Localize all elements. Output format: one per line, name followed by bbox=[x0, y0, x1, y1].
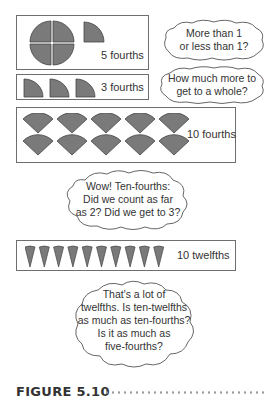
cloud-text: Wow! Ten-fourths: Did we count as far as… bbox=[63, 180, 193, 219]
quarter-circle-icon bbox=[49, 78, 70, 98]
cloud-line: as much as ten-fourths? bbox=[70, 314, 198, 327]
cloud-line: five-fourths? bbox=[70, 340, 198, 353]
cloud-line: as 2? Did we get to 3? bbox=[63, 206, 193, 219]
five-fourths-box: 5 fourths bbox=[16, 15, 149, 70]
thought-cloud-how-much-more: How much more to get to a whole? bbox=[158, 65, 266, 105]
five-fourths-label: 5 fourths bbox=[101, 49, 144, 61]
quarter-circle-icon bbox=[83, 21, 105, 43]
ten-twelfth-wedges-icon bbox=[25, 245, 175, 269]
cloud-line: twelfths. Is ten-twelfths bbox=[70, 301, 198, 314]
ten-twelfths-box: 10 twelfths bbox=[16, 240, 236, 271]
dotted-rule bbox=[104, 391, 268, 394]
cloud-line: Did we count as far bbox=[63, 193, 193, 206]
cloud-line: More than 1 bbox=[162, 27, 266, 40]
cloud-line: That's a lot of bbox=[70, 288, 198, 301]
ten-fourths-box: 10 fourths bbox=[16, 107, 236, 163]
cloud-text: More than 1 or less than 1? bbox=[162, 27, 266, 53]
cloud-line: get to a whole? bbox=[158, 85, 266, 98]
cloud-text: That's a lot of twelfths. Is ten-twelfth… bbox=[70, 288, 198, 353]
thought-cloud-more-or-less: More than 1 or less than 1? bbox=[162, 18, 266, 62]
cloud-line: Is it as much as bbox=[70, 327, 198, 340]
quarter-circle-icon bbox=[23, 78, 44, 98]
three-fourths-label: 3 fourths bbox=[101, 81, 144, 93]
ten-fourths-label: 10 fourths bbox=[187, 128, 236, 140]
thought-cloud-ten-fourths: Wow! Ten-fourths: Did we count as far as… bbox=[63, 168, 193, 232]
whole-circle-four-quarters-icon bbox=[29, 20, 75, 66]
cloud-text: How much more to get to a whole? bbox=[158, 72, 266, 98]
figure-caption: FIGURE 5.10 bbox=[16, 384, 110, 399]
three-fourths-box: 3 fourths bbox=[16, 74, 149, 100]
ten-twelfths-label: 10 twelfths bbox=[177, 249, 230, 261]
quarter-circle-icon bbox=[75, 78, 96, 98]
cloud-line: How much more to bbox=[158, 72, 266, 85]
thought-cloud-twelfths: That's a lot of twelfths. Is ten-twelfth… bbox=[70, 278, 198, 370]
ten-quarter-wedges-icon bbox=[22, 113, 197, 159]
cloud-line: Wow! Ten-fourths: bbox=[63, 180, 193, 193]
cloud-line: or less than 1? bbox=[162, 40, 266, 53]
